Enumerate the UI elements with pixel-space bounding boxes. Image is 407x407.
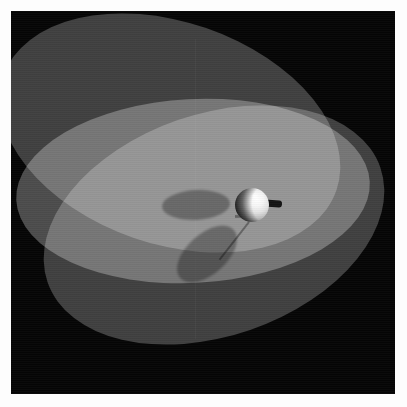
image-title: Raytraced sphere with rod over three tra… [0, 0, 1, 1]
sphere-specular-highlight [251, 193, 259, 200]
render-canvas [11, 11, 395, 394]
photo-mount-border: Raytraced sphere with rod over three tra… [0, 0, 407, 407]
